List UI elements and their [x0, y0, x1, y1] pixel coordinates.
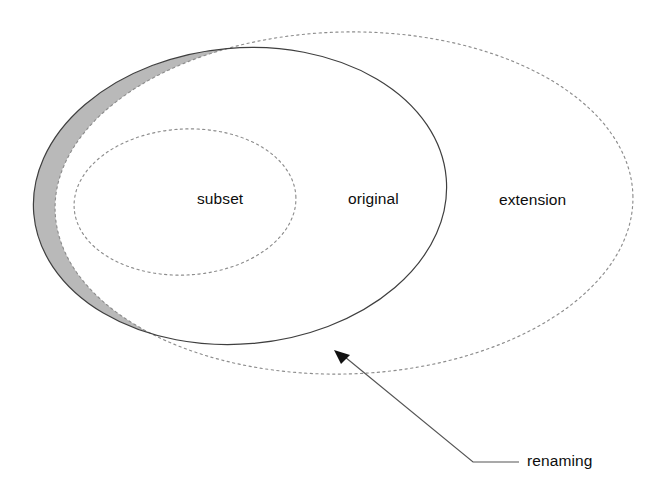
- annotation-label-renaming: renaming: [527, 452, 592, 470]
- region-label-original: original: [348, 190, 399, 208]
- renaming-shaded-band: [0, 0, 649, 495]
- region-label-extension: extension: [499, 191, 566, 209]
- venn-diagram-canvas: [0, 0, 649, 495]
- set-diagram: subset original extension renaming: [0, 0, 649, 495]
- region-label-subset: subset: [197, 190, 243, 208]
